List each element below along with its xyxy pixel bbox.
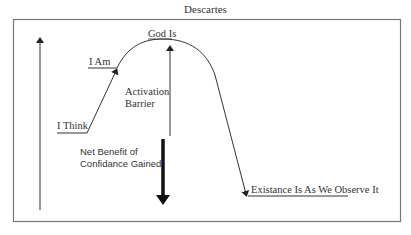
- hump-curve: [117, 39, 215, 75]
- label-activation: Activation: [125, 86, 169, 98]
- label-confidence-gained: Confidance Gained: [80, 158, 161, 170]
- label-i-think: I Think: [57, 120, 88, 132]
- diagram-canvas: [0, 0, 411, 235]
- label-existence: Existance Is As We Observe It: [251, 184, 379, 196]
- label-i-am: I Am: [89, 56, 110, 68]
- label-net-benefit: Net Benefit of: [80, 146, 138, 158]
- descent-arrow: [215, 75, 246, 194]
- rise-arrow: [87, 71, 116, 133]
- label-barrier: Barrier: [125, 98, 155, 110]
- label-god-is: God Is: [148, 28, 176, 40]
